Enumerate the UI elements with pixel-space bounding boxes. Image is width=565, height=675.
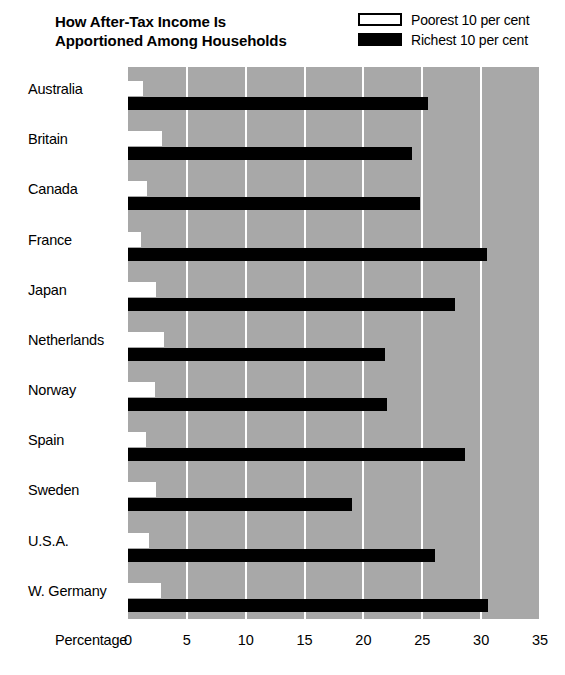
category-axis-labels: AustraliaBritainCanadaFranceJapanNetherl… xyxy=(0,67,124,619)
chart-title: How After-Tax Income Is Apportioned Amon… xyxy=(55,12,355,50)
bar-poorest xyxy=(128,81,143,96)
axis-tick-label-20: 20 xyxy=(343,632,383,648)
bar-richest xyxy=(128,248,487,261)
bar-richest xyxy=(128,97,428,110)
category-label-spain: Spain xyxy=(0,433,124,447)
bar-richest xyxy=(128,498,352,511)
axis-tick-label-5: 5 xyxy=(167,632,207,648)
chart-root: How After-Tax Income Is Apportioned Amon… xyxy=(0,0,565,675)
legend-swatch-richest-icon xyxy=(358,33,402,46)
category-label-france: France xyxy=(0,233,124,247)
bar-richest xyxy=(128,197,420,210)
bar-richest xyxy=(128,448,465,461)
legend-item-richest: Richest 10 per cent xyxy=(358,30,563,49)
bar-poorest xyxy=(128,232,141,247)
gridline-25 xyxy=(421,67,423,619)
bar-richest xyxy=(128,348,385,361)
category-label-sweden: Sweden xyxy=(0,483,124,497)
axis-tick-label-35: 35 xyxy=(520,632,560,648)
category-label-britain: Britain xyxy=(0,132,124,146)
category-label-australia: Australia xyxy=(0,82,124,96)
axis-tick-label-30: 30 xyxy=(461,632,501,648)
bar-poorest xyxy=(128,533,149,548)
bar-poorest xyxy=(128,482,156,497)
axis-tick-label-15: 15 xyxy=(285,632,325,648)
bar-richest xyxy=(128,549,435,562)
bar-richest xyxy=(128,298,455,311)
plot-wrapper: AustraliaBritainCanadaFranceJapanNetherl… xyxy=(0,62,565,622)
legend-label-poorest: Poorest 10 per cent xyxy=(411,12,529,28)
category-label-norway: Norway xyxy=(0,383,124,397)
value-axis: Percentage 05101520253035 xyxy=(0,622,565,662)
category-label-canada: Canada xyxy=(0,182,124,196)
legend-item-poorest: Poorest 10 per cent xyxy=(358,10,563,29)
bar-poorest xyxy=(128,282,156,297)
bar-richest xyxy=(128,147,412,160)
gridline-30 xyxy=(480,67,482,619)
chart-header: How After-Tax Income Is Apportioned Amon… xyxy=(0,0,565,62)
bar-richest xyxy=(128,398,387,411)
chart-title-line-1: How After-Tax Income Is xyxy=(55,12,355,31)
bar-poorest xyxy=(128,382,155,397)
axis-tick-label-10: 10 xyxy=(226,632,266,648)
category-label-u-s-a: U.S.A. xyxy=(0,534,124,548)
bar-poorest xyxy=(128,181,147,196)
bar-poorest xyxy=(128,583,161,598)
bar-poorest xyxy=(128,131,162,146)
chart-legend: Poorest 10 per cent Richest 10 per cent xyxy=(358,10,563,50)
bar-richest xyxy=(128,599,488,612)
plot-area xyxy=(128,67,540,619)
axis-tick-label-0: 0 xyxy=(108,632,148,648)
chart-title-line-2: Apportioned Among Households xyxy=(55,31,355,50)
category-label-w-germany: W. Germany xyxy=(0,584,124,598)
axis-tick-label-25: 25 xyxy=(402,632,442,648)
category-label-netherlands: Netherlands xyxy=(0,333,124,347)
legend-label-richest: Richest 10 per cent xyxy=(411,32,528,48)
bar-poorest xyxy=(128,432,146,447)
bar-poorest xyxy=(128,332,164,347)
category-label-japan: Japan xyxy=(0,283,124,297)
legend-swatch-poorest-icon xyxy=(358,13,402,26)
gridline-35 xyxy=(539,67,540,619)
